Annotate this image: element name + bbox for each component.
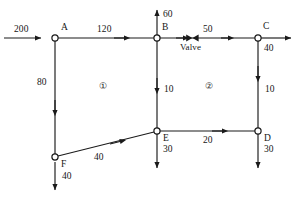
edge-label-outflow-B: 60 [163,10,173,20]
pipe-network-svg [0,0,300,199]
valve-icon [186,34,198,41]
node-B[interactable] [154,35,160,41]
edge-label-F-E: 40 [94,153,104,163]
node-label-D: D [264,134,271,144]
valve-label: Valve [180,43,201,52]
edge-label-inflow-A: 200 [14,25,29,35]
edge-label-outflow-F: 40 [62,172,72,182]
node-label-E: E [163,134,169,144]
edge-label-A-B: 120 [97,25,112,35]
edge-label-A-F: 80 [37,78,47,88]
node-label-F: F [61,160,66,170]
edge-label-B-C: 50 [203,25,213,35]
edge-label-B-E: 10 [164,85,174,95]
region-2-label: ② [205,82,213,91]
node-E[interactable] [154,128,160,134]
edge-label-C-D: 10 [265,85,275,95]
node-label-A: A [61,23,68,33]
edge-label-outflow-E: 30 [163,145,173,155]
edge-label-outflow-D: 30 [264,145,274,155]
node-label-B: B [162,23,168,33]
region-1-label: ① [99,82,107,91]
node-A[interactable] [52,35,58,41]
node-D[interactable] [255,128,261,134]
diagram-canvas: A B C D E F 200 120 50 60 40 80 10 10 40… [0,0,300,199]
edge-label-outflow-C: 40 [264,44,274,54]
edge-label-E-D: 20 [203,136,213,146]
node-C[interactable] [255,35,261,41]
edge-F-E [58,132,154,156]
node-F[interactable] [52,154,58,160]
node-label-C: C [263,22,269,32]
